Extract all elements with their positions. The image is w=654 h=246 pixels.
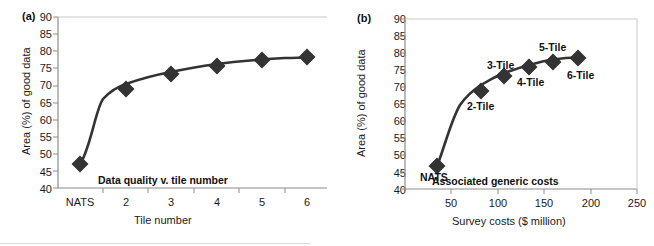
panel-b-xtick-100: 100 xyxy=(482,197,514,209)
panel-a-xtick-2: 2 xyxy=(111,196,141,208)
bottom-divider xyxy=(0,243,310,244)
panel-b-plot-area xyxy=(327,0,654,246)
panel-b-point-label-2tile: 2-Tile xyxy=(467,100,494,112)
panel-a-xtick-4: 4 xyxy=(202,196,232,208)
panel-a-xtick-6: 6 xyxy=(292,196,322,208)
chart-panel-a: (a) Area (%) of good data 90 85 80 75 70… xyxy=(0,0,327,246)
panel-b-x-axis-title: Survey costs ($ million) xyxy=(452,215,612,227)
chart-panel-b: (b) Area (%) of good data 90 85 80 75 70… xyxy=(327,0,654,246)
panel-a-x-axis-title: Tile number xyxy=(134,214,254,226)
panel-a-xtick-3: 3 xyxy=(156,196,186,208)
panel-b-xtick-50: 50 xyxy=(436,197,466,209)
figure-container: (a) Area (%) of good data 90 85 80 75 70… xyxy=(0,0,654,246)
panel-b-point-label-6tile: 6-Tile xyxy=(567,69,594,81)
panel-b-point-label-5tile: 5-Tile xyxy=(539,41,566,53)
panel-b-point-label-4tile: 4-Tile xyxy=(517,76,544,88)
panel-b-xtick-200: 200 xyxy=(575,197,607,209)
panel-a-inner-caption: Data quality v. tile number xyxy=(98,174,228,186)
panel-a-xtick-nats: NATS xyxy=(60,196,100,208)
panel-b-xtick-250: 250 xyxy=(621,197,653,209)
panel-b-inner-caption: Associated generic costs xyxy=(432,175,559,187)
panel-a-xtick-5: 5 xyxy=(247,196,277,208)
panel-b-xtick-150: 150 xyxy=(528,197,560,209)
panel-b-point-label-3tile: 3-Tile xyxy=(487,59,514,71)
panel-a-plot-area xyxy=(0,0,327,246)
